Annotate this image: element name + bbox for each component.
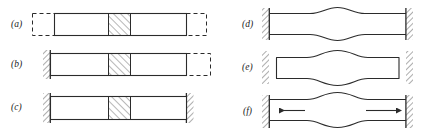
- panel-label-d: (d): [242, 20, 253, 30]
- panel-f-graphics: [262, 93, 413, 129]
- panel-d-right-wall-hatch: [406, 8, 413, 40]
- panel-f-right-wall-hatch: [406, 95, 413, 128]
- panel-label-b: (b): [11, 60, 22, 70]
- panel-a-hatched-block: [109, 14, 131, 36]
- panel-f-bar-bottom-profile: [270, 121, 407, 128]
- panel-c-graphics: [43, 93, 194, 123]
- panel-b-dashed-right-extension: [187, 54, 211, 76]
- panel-a-dashed-right-extension: [187, 14, 207, 36]
- figure-container: (a) (b) (c) (d) (e) (f): [0, 0, 424, 138]
- panel-d-graphics: [262, 8, 413, 41]
- panel-f-left-wall-hatch: [262, 95, 269, 128]
- panel-d-bar-bottom-profile: [270, 35, 407, 41]
- panel-d-bar-top-profile: [270, 8, 407, 14]
- panel-f-bar-top-profile: [270, 93, 407, 100]
- panel-label-f: (f): [243, 107, 252, 117]
- panel-b-left-wall-hatch: [43, 50, 50, 79]
- panel-e-graphics: [262, 51, 413, 86]
- panel-label-e: (e): [242, 63, 253, 73]
- panel-a-dashed-left-extension: [33, 14, 55, 36]
- panel-label-a: (a): [11, 20, 22, 30]
- panel-label-c: (c): [11, 103, 22, 113]
- panel-c-right-wall-hatch: [187, 93, 194, 123]
- panel-e-bar-outline: [277, 51, 400, 86]
- panel-a-graphics: [33, 14, 207, 36]
- panel-b-hatched-block: [109, 54, 131, 76]
- panel-c-left-wall-hatch: [43, 93, 50, 123]
- panel-e-right-wall-hatch: [406, 51, 413, 84]
- figure-svg: [0, 0, 424, 138]
- panel-c-hatched-block: [109, 97, 131, 120]
- panel-e-left-wall-hatch: [262, 51, 269, 84]
- panel-d-left-wall-hatch: [262, 8, 269, 40]
- panel-b-graphics: [43, 50, 211, 79]
